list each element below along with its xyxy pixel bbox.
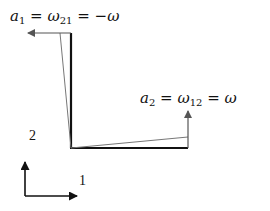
a1-sub: 1 bbox=[19, 15, 25, 26]
axis-label-2: 2 bbox=[29, 129, 36, 143]
a1-omega-sub: 21 bbox=[60, 15, 73, 26]
a2-var: a bbox=[140, 89, 149, 107]
a2-eq2: = bbox=[207, 89, 220, 107]
a2-sub: 2 bbox=[149, 97, 155, 108]
label-a2: a2 = ω12 = ω bbox=[140, 91, 237, 106]
a1-eq2: = bbox=[77, 7, 90, 25]
axis-label-1: 1 bbox=[79, 174, 86, 188]
a1-omega: ω bbox=[47, 7, 59, 25]
a1-rhs: −ω bbox=[95, 7, 120, 25]
shear-rotation-diagram: a1 = ω21 = −ω a2 = ω12 = ω 2 1 bbox=[0, 0, 270, 211]
coordinate-axes bbox=[25, 162, 77, 196]
a1-eq1: = bbox=[30, 7, 43, 25]
a2-rhs: ω bbox=[225, 89, 237, 107]
a1-var: a bbox=[10, 7, 19, 25]
a2-omega-sub: 12 bbox=[190, 97, 203, 108]
a2-omega: ω bbox=[177, 89, 189, 107]
a2-eq1: = bbox=[160, 89, 173, 107]
label-a1: a1 = ω21 = −ω bbox=[10, 9, 119, 24]
